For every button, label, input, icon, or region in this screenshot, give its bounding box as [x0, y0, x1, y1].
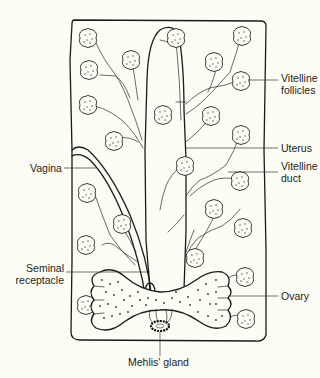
label-seminal-receptacle: Seminal receptacle — [14, 262, 64, 286]
label-vitelline-duct-line2: duct — [281, 172, 318, 184]
label-vitelline-duct-line1: Vitelline — [281, 160, 318, 172]
label-mehlis-gland: Mehlis' gland — [128, 356, 189, 368]
label-vitelline-duct: Vitelline duct — [281, 160, 318, 184]
label-ovary: Ovary — [281, 290, 309, 302]
label-seminal-receptacle-line1: Seminal — [14, 262, 64, 274]
label-vitelline-follicles-line1: Vitelline — [281, 72, 318, 84]
diagram-canvas: Vitelline follicles Uterus Vitelline duc… — [0, 0, 320, 378]
mehlis-gland — [149, 310, 172, 331]
label-vitelline-follicles-line2: follicles — [281, 84, 318, 96]
label-uterus: Uterus — [281, 142, 312, 154]
diagram-drawing — [0, 0, 320, 378]
label-vagina: Vagina — [30, 162, 62, 174]
label-seminal-receptacle-line2: receptacle — [14, 274, 64, 286]
label-vitelline-follicles: Vitelline follicles — [281, 72, 318, 96]
